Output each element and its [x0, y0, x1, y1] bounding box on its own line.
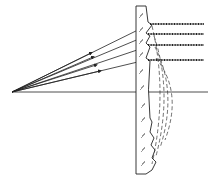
outgoing-rays	[148, 24, 204, 60]
fresnel-lens	[136, 6, 156, 174]
dashed-curves	[152, 26, 172, 164]
incoming-rays	[12, 26, 146, 92]
fresnel-lens-diagram	[0, 0, 216, 180]
